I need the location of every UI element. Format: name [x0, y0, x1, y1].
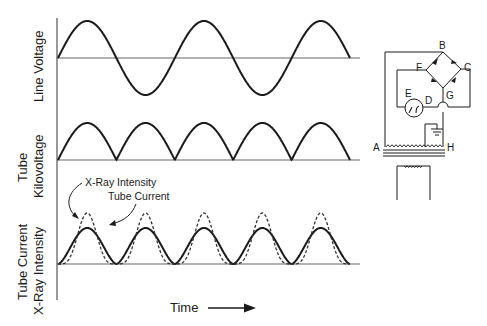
tube-current-waveform — [58, 228, 350, 264]
diagram-canvas: Line Voltage Tube Kilovoltage Tube Curre… — [0, 0, 487, 326]
node-b: B — [439, 40, 446, 51]
xray-tube-icon — [409, 106, 419, 113]
node-c: C — [464, 62, 471, 73]
time-label: Time — [170, 300, 198, 315]
tube-current-annotation: Tube Current — [108, 190, 170, 202]
arrowhead-icon — [109, 220, 116, 226]
node-d: D — [425, 95, 432, 106]
transformer-primary-winding — [404, 166, 422, 168]
line-voltage-label: Line Voltage — [31, 30, 46, 102]
xray-intensity-waveform — [58, 213, 350, 264]
kilovoltage-label: Kilovoltage — [31, 134, 46, 198]
bridge-rectifier-circuit — [383, 52, 470, 200]
xray-annotation-pointer — [69, 183, 82, 217]
node-g: G — [446, 90, 454, 101]
tube-label: Tube — [15, 153, 30, 182]
node-e: E — [405, 88, 412, 99]
node-f: F — [416, 62, 422, 73]
tube-current-label: Tube Current — [15, 224, 30, 300]
node-a: A — [373, 142, 380, 153]
kilovoltage-waveform — [58, 123, 350, 160]
transformer-secondary-winding — [386, 145, 442, 147]
current-annotation-pointer — [112, 204, 136, 224]
xray-intensity-annotation: X-Ray Intensity — [85, 176, 157, 188]
arrow-right-icon — [244, 304, 256, 313]
xray-intensity-label: X-Ray Intensity — [31, 226, 46, 315]
node-h: H — [447, 142, 454, 153]
